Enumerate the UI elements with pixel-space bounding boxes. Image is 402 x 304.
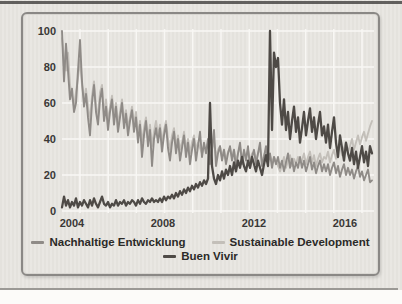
y-tick-label: 100: [38, 25, 56, 37]
line-swatch-icon: [163, 255, 176, 258]
legend-row-2: Buen Vivir: [163, 250, 238, 263]
line-swatch-icon: [31, 241, 44, 244]
y-tick-label: 60: [44, 97, 56, 109]
scanned-page: 0204060801002004200820122016 Nachhaltige…: [0, 0, 402, 304]
legend-label-buen-vivir: Buen Vivir: [181, 250, 238, 263]
x-tick-label: 2016: [333, 217, 357, 229]
y-tick-label: 80: [44, 61, 56, 73]
google-trends-line-chart: 0204060801002004200820122016: [23, 14, 378, 274]
legend-row-1: Nachhaltige Entwicklung Sustainable Deve…: [31, 236, 369, 249]
x-tick-label: 2008: [151, 217, 175, 229]
y-tick-label: 40: [44, 133, 56, 145]
legend-label-nachhaltige-entwicklung: Nachhaltige Entwicklung: [49, 236, 185, 249]
line-swatch-icon: [212, 241, 225, 244]
legend-item-nachhaltige-entwicklung: Nachhaltige Entwicklung: [31, 236, 185, 249]
page-top-rule: [0, 1, 402, 4]
y-tick-label: 0: [50, 205, 56, 217]
legend-label-sustainable-development: Sustainable Development: [230, 236, 370, 249]
chart-legend: Nachhaltige Entwicklung Sustainable Deve…: [23, 236, 378, 263]
page-margin: [0, 290, 402, 304]
figure-frame: 0204060801002004200820122016 Nachhaltige…: [21, 12, 380, 276]
x-tick-label: 2004: [60, 217, 85, 229]
legend-item-buen-vivir: Buen Vivir: [163, 250, 238, 263]
y-tick-label: 20: [44, 169, 56, 181]
x-tick-label: 2012: [242, 217, 266, 229]
legend-item-sustainable-development: Sustainable Development: [212, 236, 370, 249]
